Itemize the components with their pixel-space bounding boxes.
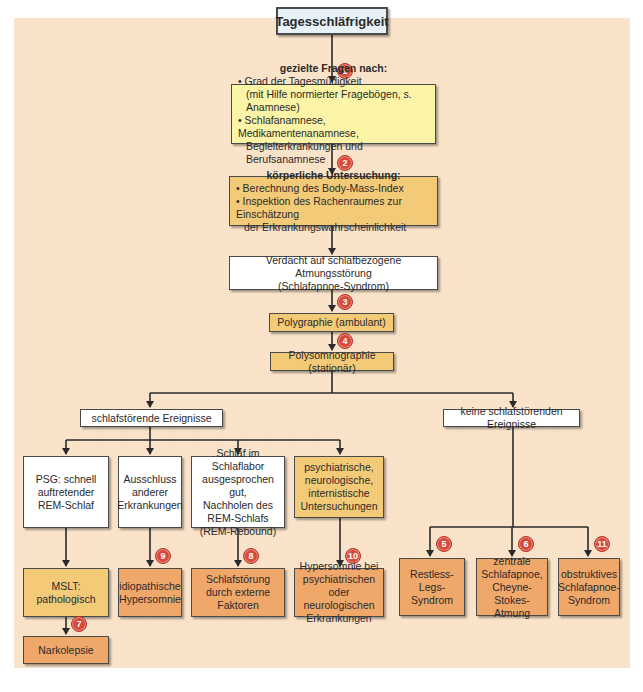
finding-line: Schlaf im Schlaflabor <box>192 447 284 473</box>
finding-psychiatric-exams: psychiatrische, neurologische, internist… <box>294 456 384 518</box>
step-badge-11: 11 <box>594 536 610 552</box>
diagnosis-line: Restless- <box>410 568 454 581</box>
step2-bullet: • Inspektion des Rachenraumes zur Einsch… <box>236 195 431 221</box>
diagnosis-line: durch externe <box>206 586 270 599</box>
diagnosis-external-factors: Schlafstörung durch externe Faktoren <box>191 568 285 617</box>
step1-bullet: (mit Hilfe normierter Fragebögen, s. Ana… <box>238 88 429 114</box>
mslt-box: MSLT: pathologisch <box>23 568 109 617</box>
diagnosis-idiopathic-hypersomnia: idiopathische Hypersomnie <box>118 568 182 617</box>
diagnosis-restless-legs: Restless- Legs- Syndrom <box>399 558 465 616</box>
finding-line: PSG: schnell <box>36 473 97 486</box>
step1-heading: gezielte Fragen nach: <box>280 62 387 75</box>
finding-line: ausgesprochen gut, <box>192 473 284 499</box>
diagnosis-line: Hypersomnie bei <box>300 560 379 573</box>
step-badge-3: 3 <box>337 294 353 310</box>
diagnosis-line: Stokes-Atmung <box>477 594 547 620</box>
narkolepsie-label: Narkolepsie <box>38 644 93 657</box>
step-badge-4: 4 <box>337 333 353 349</box>
step1-bullet: • Grad der Tagesmüdigkeit <box>238 75 362 88</box>
finding-line: REM-Schlafs <box>207 512 268 525</box>
step2-bullet: • Berechnung des Body-Mass-Index <box>236 182 404 195</box>
polysomnographie-box: Polysomnographie (stationär) <box>270 352 394 371</box>
step2-heading: körperliche Untersuchung: <box>266 169 400 182</box>
diagnosis-line: Schlafapnoe- <box>558 581 620 594</box>
finding-psg-rem: PSG: schnell auftretender REM-Schlaf <box>23 456 109 528</box>
diagnosis-hypersomnia-psychiatric: Hypersomnie bei psychiatrischen oder neu… <box>294 568 384 617</box>
diagnosis-line: psychiatrischen oder <box>295 573 383 599</box>
diagnosis-line: Cheyne- <box>492 581 532 594</box>
diagnosis-line: Faktoren <box>217 599 258 612</box>
diagnosis-line: obstruktives <box>561 568 617 581</box>
step1-bullet: Begleiterkrankungen und Berufsanamnese <box>238 140 429 166</box>
step2-bullet: der Erkrankungswahrscheinlichkeit <box>236 221 406 234</box>
diagnosis-line: Syndrom <box>568 594 610 607</box>
finding-line: REM-Schlaf <box>38 499 94 512</box>
step-badge-5: 5 <box>436 536 452 552</box>
finding-line: (REM-Rebound) <box>200 525 276 538</box>
mslt-label: MSLT: pathologisch <box>24 580 108 606</box>
title-box: Tagesschläfrigkeit <box>276 7 388 35</box>
step-badge-9: 9 <box>155 548 171 564</box>
polygraphie-box: Polygraphie (ambulant) <box>269 313 394 332</box>
diagnosis-line: Erkrankungen <box>306 612 371 625</box>
finding-line: Nachholen des <box>203 499 273 512</box>
step1-questions-box: gezielte Fragen nach: • Grad der Tagesmü… <box>231 84 436 144</box>
finding-line: anderer <box>132 486 168 499</box>
finding-line: Untersuchungen <box>300 500 377 513</box>
diagnosis-line: Hypersomnie <box>119 593 181 606</box>
diagnosis-line: Legs- <box>419 581 445 594</box>
diagnosis-line: neurologischen <box>303 599 374 612</box>
diagnosis-narkolepsie: Narkolepsie <box>23 636 109 664</box>
finding-line: Ausschluss <box>123 473 176 486</box>
suspicion-line: (Schlafapnoe-Syndrom) <box>278 280 389 293</box>
diagnosis-line: Schlafstörung <box>206 573 270 586</box>
suspicion-line: Verdacht auf schlafbezogene Atmungsstöru… <box>230 254 437 280</box>
step1-bullet: • Schlafanamnese, Medikamentenanamnese, <box>238 114 429 140</box>
diagnosis-line: idiopathische <box>119 580 180 593</box>
step-badge-8: 8 <box>243 548 259 564</box>
diagnosis-line: Syndrom <box>411 594 453 607</box>
finding-exclusion: Ausschluss anderer Erkrankungen <box>118 456 182 528</box>
step-badge-6: 6 <box>518 536 534 552</box>
diagnosis-obstructive-apnea: obstruktives Schlafapnoe- Syndrom <box>558 558 620 616</box>
suspicion-box: Verdacht auf schlafbezogene Atmungsstöru… <box>229 256 438 290</box>
finding-line: internistische <box>308 487 369 500</box>
step2-examination-box: körperliche Untersuchung: • Berechnung d… <box>229 176 438 226</box>
finding-rem-rebound: Schlaf im Schlaflabor ausgesprochen gut,… <box>191 456 285 528</box>
title-text: Tagesschläfrigkeit <box>275 15 388 28</box>
finding-line: auftretender <box>38 486 95 499</box>
finding-line: psychiatrische, <box>304 461 373 474</box>
finding-line: neurologische, <box>305 474 373 487</box>
diagnosis-central-apnea: zentrale Schlafapnoe, Cheyne- Stokes-Atm… <box>476 558 548 616</box>
polygraphie-label: Polygraphie (ambulant) <box>277 316 386 329</box>
finding-line: Erkrankungen <box>117 499 182 512</box>
step-badge-7: 7 <box>71 616 87 632</box>
diagnosis-line: zentrale <box>493 555 530 568</box>
branch-no-sleep-disturbing-events: keine schlafstörenden Ereignisse <box>443 409 580 427</box>
branch-left-label: schlafstörende Ereignisse <box>91 412 211 425</box>
branch-right-label: keine schlafstörenden Ereignisse <box>444 405 579 431</box>
diagnosis-line: Schlafapnoe, <box>481 568 542 581</box>
polysomnographie-label: Polysomnographie (stationär) <box>271 349 393 375</box>
branch-sleep-disturbing-events: schlafstörende Ereignisse <box>80 409 223 427</box>
